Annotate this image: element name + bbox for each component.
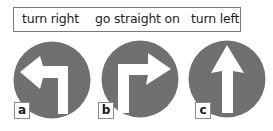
label-b: b <box>98 102 114 119</box>
road-signs <box>0 0 273 131</box>
label-c: c <box>195 102 211 119</box>
label-a: a <box>14 102 30 119</box>
